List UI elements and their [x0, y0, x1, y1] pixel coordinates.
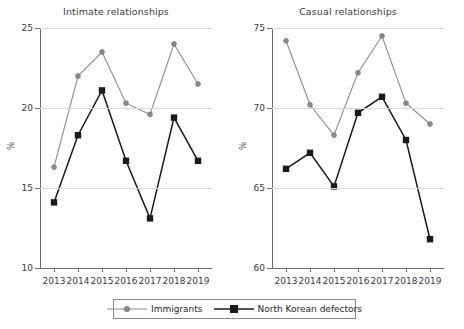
plot-area-intimate: 101520252013201420152016201720182019 [40, 28, 212, 268]
plot-area-casual: 606570752013201420152016201720182019 [272, 28, 444, 268]
y-axis-tick [35, 108, 40, 109]
legend-label-immigrants: Immigrants [151, 304, 203, 314]
circle-marker [76, 74, 81, 79]
x-axis-tick-label: 2013 [275, 276, 298, 286]
y-axis-tick-label: 10 [22, 263, 33, 273]
chart-title-intimate: Intimate relationships [0, 6, 232, 17]
y-axis-tick-label: 75 [254, 23, 265, 33]
circle-marker [404, 101, 409, 106]
y-axis-label-right: % [238, 142, 248, 150]
x-axis-tick [198, 268, 199, 272]
x-axis-tick-label: 2018 [163, 276, 186, 286]
circle-marker [124, 101, 129, 106]
chart-title-casual: Casual relationships [232, 6, 464, 17]
x-axis-tick [126, 268, 127, 272]
square-marker [147, 215, 153, 221]
x-axis-tick-label: 2017 [139, 276, 162, 286]
circle-marker [196, 82, 201, 87]
chart-panel-casual: Casual relationships % 60657075201320142… [232, 0, 464, 290]
y-axis-tick-label: 20 [22, 103, 33, 113]
x-axis-tick [286, 268, 287, 272]
x-axis-tick-label: 2015 [323, 276, 346, 286]
x-axis-tick [54, 268, 55, 272]
circle-marker [148, 112, 153, 117]
gridline [40, 108, 212, 109]
series-line [286, 36, 430, 135]
chart-panel-intimate: Intimate relationships % 101520252013201… [0, 0, 232, 290]
series-layer-right [272, 28, 444, 269]
y-axis-tick [267, 28, 272, 29]
x-axis-tick [174, 268, 175, 272]
circle-marker [100, 50, 105, 55]
square-marker [379, 94, 385, 100]
x-axis-tick-label: 2018 [395, 276, 418, 286]
square-marker [75, 132, 81, 138]
circle-marker [308, 102, 313, 107]
circle-marker [356, 70, 361, 75]
square-marker-icon [214, 303, 254, 315]
legend-item-defectors: North Korean defectors [214, 303, 362, 315]
circle-marker [380, 34, 385, 39]
square-marker [123, 158, 129, 164]
square-marker [195, 158, 201, 164]
gridline [40, 188, 212, 189]
legend-item-immigrants: Immigrants [107, 303, 203, 315]
circle-marker-icon [107, 303, 147, 315]
y-axis-tick [35, 188, 40, 189]
series-layer-left [40, 28, 212, 269]
y-axis-tick-label: 60 [254, 263, 265, 273]
x-axis-tick [78, 268, 79, 272]
square-marker [171, 114, 177, 120]
square-marker [307, 150, 313, 156]
y-axis-tick [267, 108, 272, 109]
circle-marker [284, 38, 289, 43]
y-axis-tick-label: 15 [22, 183, 33, 193]
square-marker [403, 137, 409, 143]
x-axis-tick-label: 2016 [347, 276, 370, 286]
gridline [272, 28, 444, 29]
x-axis-tick [310, 268, 311, 272]
x-axis-tick [334, 268, 335, 272]
y-axis-tick-label: 70 [254, 103, 265, 113]
x-axis-tick-label: 2013 [43, 276, 66, 286]
gridline [272, 188, 444, 189]
x-axis-tick-label: 2014 [299, 276, 322, 286]
square-marker [355, 110, 361, 116]
x-axis-tick [150, 268, 151, 272]
x-axis-tick [406, 268, 407, 272]
x-axis-tick-label: 2014 [67, 276, 90, 286]
gridline [40, 28, 212, 29]
x-axis-tick [430, 268, 431, 272]
y-axis-tick [267, 188, 272, 189]
circle-marker [172, 42, 177, 47]
gridline [272, 108, 444, 109]
y-axis-tick [35, 28, 40, 29]
series-line [54, 90, 198, 218]
y-axis-tick-label: 25 [22, 23, 33, 33]
legend-label-defectors: North Korean defectors [258, 304, 362, 314]
x-axis-tick [102, 268, 103, 272]
square-marker [51, 199, 57, 205]
square-marker [99, 87, 105, 93]
x-axis-tick [382, 268, 383, 272]
circle-marker [332, 133, 337, 138]
x-axis-tick-label: 2015 [91, 276, 114, 286]
y-axis-tick [35, 268, 40, 269]
series-line [286, 97, 430, 239]
y-axis-tick-label: 65 [254, 183, 265, 193]
circle-marker [52, 165, 57, 170]
legend: Immigrants North Korean defectors [113, 299, 356, 319]
x-axis-tick-label: 2017 [371, 276, 394, 286]
y-axis-label-left: % [6, 142, 16, 150]
square-marker [283, 166, 289, 172]
x-axis-tick-label: 2016 [115, 276, 138, 286]
x-axis-tick [358, 268, 359, 272]
x-axis-tick-label: 2019 [187, 276, 210, 286]
circle-marker [428, 122, 433, 127]
x-axis-tick-label: 2019 [419, 276, 442, 286]
figure-root: Intimate relationships % 101520252013201… [0, 0, 464, 329]
square-marker [427, 236, 433, 242]
y-axis-tick [267, 268, 272, 269]
